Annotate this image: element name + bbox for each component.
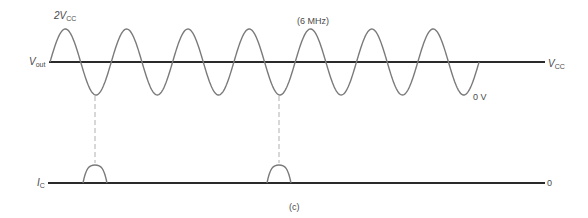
ic-zero-label: 0 xyxy=(547,178,552,188)
ic-label: IC xyxy=(37,177,45,189)
frequency-label: (6 MHz) xyxy=(297,16,329,26)
vcc-right-label: VCC xyxy=(548,58,565,70)
ic-pulse-2 xyxy=(267,165,291,183)
waveform-diagram xyxy=(0,0,588,218)
peak-label-2vcc: 2VCC xyxy=(54,10,76,22)
zero-volt-label: 0 V xyxy=(473,92,487,102)
ic-pulse-1 xyxy=(83,165,107,183)
figure-label: (c) xyxy=(289,202,300,212)
vout-label: Vout xyxy=(29,56,45,68)
